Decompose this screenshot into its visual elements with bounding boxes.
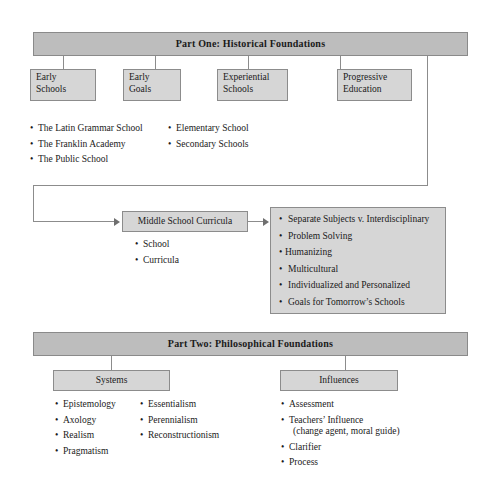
node-early-schools[interactable]: Early Schools (30, 69, 96, 101)
flowchart-diagram: Part One: Historical Foundations Early S… (0, 0, 491, 494)
connector-trunk-horizontal-top (33, 185, 428, 186)
middle-topics-box: Separate Subjects v. Interdisciplinary P… (270, 207, 446, 314)
node-middle-school-curricula-label: Middle School Curricula (138, 216, 232, 227)
list-item: Reconstructionism (140, 431, 219, 441)
list-item: Humanizing (279, 247, 437, 257)
node-experiential-schools[interactable]: Experiential Schools (217, 69, 288, 101)
list-item: Clarifier (281, 443, 400, 453)
node-influences-label: Influences (319, 375, 359, 386)
list-item: The Franklin Academy (30, 140, 143, 150)
node-experiential-schools-line1: Experiential (223, 72, 269, 84)
connector-part-one-trunk-vertical (427, 56, 428, 185)
node-progressive-education-line1: Progressive (343, 72, 387, 84)
part-one-header-bar: Part One: Historical Foundations (33, 32, 468, 56)
node-middle-school-curricula[interactable]: Middle School Curricula (122, 211, 248, 232)
list-item: Elementary School (168, 124, 249, 134)
list-item-continuation: (change agent, moral guide) (289, 427, 400, 437)
node-systems[interactable]: Systems (53, 370, 170, 391)
connector-part-two-to-influences (345, 356, 346, 370)
list-item: Individualized and Personalized (279, 280, 437, 290)
node-systems-label: Systems (96, 375, 128, 386)
node-early-goals-line1: Early (129, 72, 151, 84)
part-two-header-label: Part Two: Philosophical Foundations (168, 338, 333, 350)
list-item: Perennialism (140, 416, 219, 426)
influences-bullets: Assessment Teachers’ Influence (change a… (281, 400, 400, 474)
list-item: School (135, 240, 179, 250)
list-item: Process (281, 458, 400, 468)
systems-bullets-column-two: Essentialism Perennialism Reconstruction… (140, 400, 219, 447)
connector-part-two-to-systems (111, 356, 112, 370)
node-influences[interactable]: Influences (280, 370, 398, 391)
node-early-goals-line2: Goals (129, 84, 151, 96)
systems-bullets-column-one: Epistemology Axology Realism Pragmatism (55, 400, 116, 462)
node-progressive-education-line2: Education (343, 84, 387, 96)
list-item-text: Process (289, 457, 318, 467)
node-early-schools-line1: Early (36, 72, 66, 84)
arrow-into-middle-school-curricula (114, 218, 120, 226)
list-item: Essentialism (140, 400, 219, 410)
node-progressive-education[interactable]: Progressive Education (337, 69, 412, 101)
connector-trunk-horizontal-bottom (33, 221, 115, 222)
list-item-text: Assessment (289, 399, 334, 409)
middle-school-sub-bullets: School Curricula (135, 240, 179, 271)
connector-part-one-to-early-schools (63, 56, 64, 69)
part-one-header-label: Part One: Historical Foundations (176, 38, 325, 50)
list-item: Curricula (135, 256, 179, 266)
list-item: Realism (55, 431, 116, 441)
list-item: Separate Subjects v. Interdisciplinary (279, 214, 437, 224)
node-experiential-schools-line2: Schools (223, 84, 269, 96)
connector-part-one-to-experiential-schools (248, 56, 249, 69)
list-item-text: Teachers’ Influence (289, 415, 363, 425)
list-item: The Public School (30, 155, 143, 165)
connector-part-one-to-early-goals (155, 56, 156, 69)
connector-middle-to-topics (248, 221, 264, 222)
list-item: Epistemology (55, 400, 116, 410)
list-item: Secondary Schools (168, 140, 249, 150)
list-item-text: Clarifier (289, 442, 321, 452)
part-two-header-bar: Part Two: Philosophical Foundations (33, 332, 468, 356)
list-item: Axology (55, 416, 116, 426)
list-item: Problem Solving (279, 231, 437, 241)
connector-part-one-to-progressive-education (340, 56, 341, 69)
node-early-schools-line2: Schools (36, 84, 66, 96)
connector-trunk-left-vertical (33, 185, 34, 222)
arrow-into-topics-box (263, 218, 269, 226)
list-item: Goals for Tomorrow’s Schools (279, 297, 437, 307)
list-item: Assessment (281, 400, 400, 410)
list-item: Multicultural (279, 264, 437, 274)
list-item: Teachers’ Influence (change agent, moral… (281, 416, 400, 437)
part-one-bullets-column-one: The Latin Grammar School The Franklin Ac… (30, 124, 143, 171)
list-item: The Latin Grammar School (30, 124, 143, 134)
list-item: Pragmatism (55, 447, 116, 457)
node-early-goals[interactable]: Early Goals (123, 69, 181, 101)
part-one-bullets-column-two: Elementary School Secondary Schools (168, 124, 249, 155)
